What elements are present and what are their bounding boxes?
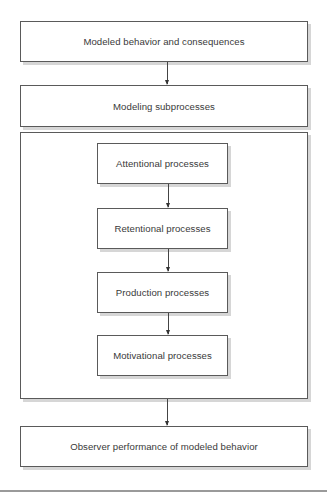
node-label: Motivational processes [113, 350, 212, 361]
node-retentional: Retentional processes [97, 208, 228, 249]
node-label: Retentional processes [115, 223, 211, 234]
node-motivational: Motivational processes [97, 335, 228, 376]
node-label: Modeled behavior and consequences [83, 36, 244, 47]
arrow-down-icon [167, 62, 168, 84]
node-modeled-behavior: Modeled behavior and consequences [20, 21, 308, 62]
bottom-divider [0, 490, 327, 492]
node-label: Production processes [116, 287, 209, 298]
node-observer-performance: Observer performance of modeled behavior [20, 426, 308, 467]
arrow-down-icon [168, 184, 169, 207]
node-label: Observer performance of modeled behavior [70, 441, 258, 452]
node-production: Production processes [97, 272, 228, 313]
arrow-down-icon [168, 313, 169, 334]
node-label: Attentional processes [116, 158, 209, 169]
node-modeling-subprocesses: Modeling subprocesses [20, 85, 308, 127]
node-label: Modeling subprocesses [113, 101, 215, 112]
node-attentional: Attentional processes [97, 143, 228, 184]
arrow-down-icon [167, 399, 168, 425]
arrow-down-icon [168, 249, 169, 271]
